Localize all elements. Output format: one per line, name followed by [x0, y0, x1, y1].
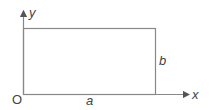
- rectangle: [24, 29, 156, 95]
- origin-label: O: [12, 92, 22, 107]
- y-axis-label: y: [28, 5, 37, 20]
- rectangle-diagram: O y x a b: [0, 0, 211, 110]
- height-label: b: [159, 53, 166, 68]
- x-axis-label: x: [191, 87, 199, 102]
- width-label: a: [86, 93, 93, 108]
